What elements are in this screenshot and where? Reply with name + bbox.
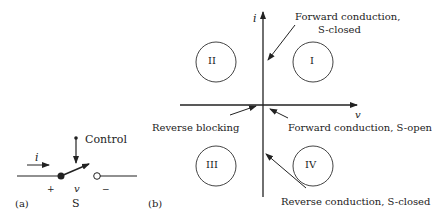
forward-closed-line2: S-closed xyxy=(318,24,361,36)
panel-b-label: (b) xyxy=(148,198,162,210)
minus-sign: − xyxy=(102,183,110,195)
plus-sign: + xyxy=(47,183,55,195)
control-label: Control xyxy=(85,134,127,146)
axis-i-label: i xyxy=(253,13,257,25)
quadrant-I: I xyxy=(310,55,314,67)
quadrant-II: II xyxy=(208,55,216,67)
forward-closed-line1: Forward conduction, xyxy=(295,11,400,23)
switch-name: S xyxy=(72,198,80,210)
quadrant-III: III xyxy=(206,159,218,171)
annotation-arrows xyxy=(230,25,306,188)
reverse-blocking-label: Reverse blocking xyxy=(152,122,239,134)
quadrant-IV: IV xyxy=(305,159,316,171)
forward-open-label: Forward conduction, S-open xyxy=(288,122,432,134)
reverse-closed-label: Reverse conduction, S-closed xyxy=(281,196,430,208)
panel-a-label: (a) xyxy=(15,198,29,210)
current-label: i xyxy=(35,152,39,164)
voltage-label: v xyxy=(74,183,80,195)
axis-v-label: v xyxy=(355,109,361,121)
